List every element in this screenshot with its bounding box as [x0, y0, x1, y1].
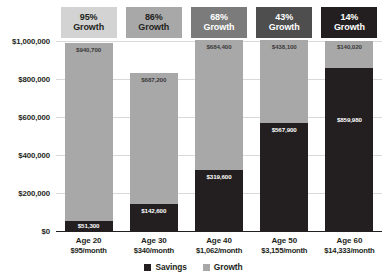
bar-segment-growth-label: $687,200	[130, 76, 178, 83]
legend-item-growth[interactable]: Growth	[203, 262, 243, 272]
growth-badge-word: Growth	[138, 23, 169, 33]
bar-segment-savings-label: $142,600	[130, 207, 178, 214]
y-axis-tick-label: $1,000,000	[12, 37, 50, 46]
bar-segment-savings-label: $319,600	[195, 173, 243, 180]
bar-segment-growth-label: $684,400	[195, 43, 243, 50]
y-axis-tick-label: $800,000	[18, 75, 50, 84]
badge-slot: 43% Growth	[252, 7, 317, 38]
growth-badge-word: Growth	[204, 23, 235, 33]
x-axis-contribution: $14,333/month	[317, 246, 382, 255]
x-axis-label-age-20: Age 20 $95/month	[56, 236, 121, 255]
x-axis-contribution: $95/month	[56, 246, 121, 255]
plot-area: $1,000,000 $800,000 $600,000 $400,000 $2…	[56, 41, 382, 231]
bar-slot-age-60: $140,020 $859,980	[317, 41, 382, 231]
stacked-bar-age-20[interactable]: $940,700 $51,300	[65, 43, 113, 231]
legend-item-savings[interactable]: Savings	[144, 262, 186, 272]
x-axis-age: Age 40	[186, 236, 251, 246]
x-axis-contribution: $1,062/month	[186, 246, 251, 255]
bar-segment-growth[interactable]: $684,400	[195, 40, 243, 170]
growth-badge-row: 95% Growth 86% Growth 68% Growth 43% Gro…	[56, 7, 382, 40]
bar-slot-age-50: $438,100 $567,900	[252, 41, 317, 231]
bar-segment-growth-label: $140,020	[325, 43, 373, 50]
y-axis-tick-label: $0	[42, 227, 50, 236]
growth-badge-word: Growth	[334, 23, 365, 33]
bar-segment-growth-label: $940,700	[65, 46, 113, 53]
x-axis-label-age-50: Age 50 $3,155/month	[252, 236, 317, 255]
stacked-bar-age-30[interactable]: $687,200 $142,600	[130, 73, 178, 231]
x-axis-baseline: $0	[56, 231, 382, 232]
stacked-bar-age-40[interactable]: $684,400 $319,600	[195, 40, 243, 231]
x-axis-contribution: $3,155/month	[252, 246, 317, 255]
bar-segment-growth[interactable]: $140,020	[325, 41, 373, 68]
stacked-bar-age-60[interactable]: $140,020 $859,980	[325, 41, 373, 231]
bar-slot-age-40: $684,400 $319,600	[186, 41, 251, 231]
bar-segment-savings-label: $859,980	[325, 116, 373, 123]
bar-segment-savings-label: $51,300	[65, 222, 113, 229]
bar-segment-savings[interactable]: $142,600	[130, 204, 178, 231]
x-axis-labels: Age 20 $95/month Age 30 $340/month Age 4…	[56, 236, 382, 255]
bar-segment-growth[interactable]: $687,200	[130, 73, 178, 204]
growth-badge-word: Growth	[73, 23, 104, 33]
growth-badge-age-40: 68% Growth	[191, 7, 247, 38]
y-axis-tick-label: $400,000	[18, 151, 50, 160]
bar-segment-savings[interactable]: $319,600	[195, 170, 243, 231]
chart-legend: Savings Growth	[0, 262, 387, 272]
bar-slot-age-30: $687,200 $142,600	[121, 41, 186, 231]
y-axis-tick-label: $200,000	[18, 189, 50, 198]
growth-badge-age-30: 86% Growth	[126, 7, 182, 38]
bar-segment-savings[interactable]: $567,900	[260, 123, 308, 231]
badge-slot: 68% Growth	[186, 7, 251, 38]
x-axis-age: Age 50	[252, 236, 317, 246]
bar-segment-savings[interactable]: $859,980	[325, 68, 373, 231]
legend-label-growth: Growth	[214, 262, 243, 272]
growth-badge-age-60: 14% Growth	[321, 7, 377, 38]
x-axis-age: Age 60	[317, 236, 382, 246]
bar-segment-growth[interactable]: $940,700	[65, 43, 113, 222]
badge-slot: 14% Growth	[317, 7, 382, 38]
bar-group: $940,700 $51,300 $687,200 $142,600	[56, 41, 382, 231]
bar-segment-growth[interactable]: $438,100	[260, 40, 308, 123]
x-axis-label-age-40: Age 40 $1,062/month	[186, 236, 251, 255]
growth-badge-age-50: 43% Growth	[256, 7, 312, 38]
y-axis-tick-label: $600,000	[18, 113, 50, 122]
stacked-bar-age-50[interactable]: $438,100 $567,900	[260, 40, 308, 231]
bar-segment-savings[interactable]: $51,300	[65, 221, 113, 231]
x-axis-age: Age 30	[121, 236, 186, 246]
badge-slot: 86% Growth	[121, 7, 186, 38]
legend-label-savings: Savings	[155, 262, 186, 272]
badge-slot: 95% Growth	[56, 7, 121, 38]
bar-segment-growth-label: $438,100	[260, 43, 308, 50]
legend-swatch-savings	[144, 264, 151, 271]
bar-segment-savings-label: $567,900	[260, 126, 308, 133]
x-axis-label-age-30: Age 30 $340/month	[121, 236, 186, 255]
growth-badge-word: Growth	[269, 23, 300, 33]
x-axis-age: Age 20	[56, 236, 121, 246]
stacked-bar-chart: 95% Growth 86% Growth 68% Growth 43% Gro…	[0, 0, 387, 278]
bar-slot-age-20: $940,700 $51,300	[56, 41, 121, 231]
x-axis-contribution: $340/month	[121, 246, 186, 255]
x-axis-label-age-60: Age 60 $14,333/month	[317, 236, 382, 255]
growth-badge-age-20: 95% Growth	[61, 7, 117, 38]
legend-swatch-growth	[203, 264, 210, 271]
